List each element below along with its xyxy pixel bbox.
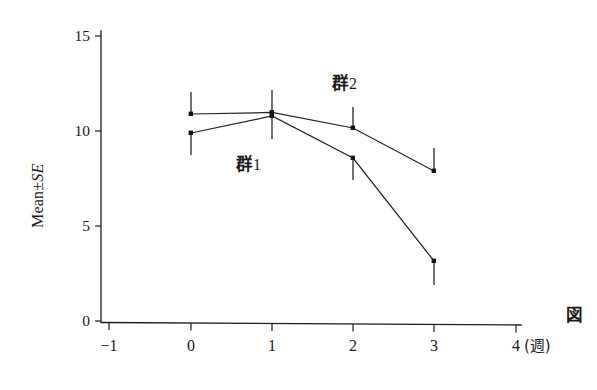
y-axis-title-plusminus: ± (29, 182, 46, 191)
x-tick-label-0: 0 (161, 338, 221, 354)
series-label-group1-kanji: 群 (236, 155, 253, 174)
x-axis-unit-label: (週) (524, 339, 551, 354)
y-axis-ticks (95, 36, 101, 321)
y-axis-title-mean: Mean (29, 191, 46, 228)
errorbars-group2 (191, 90, 434, 171)
y-tick-label-5: 5 (44, 218, 90, 234)
series-label-group2-number: 2 (349, 75, 357, 92)
series-label-group2: 群2 (332, 76, 357, 93)
series-label-group2-kanji: 群 (332, 74, 349, 93)
figure-corner-mark: 図 (566, 308, 583, 325)
x-tick-label-minus1: −1 (79, 338, 139, 354)
figure-chart: 15 10 5 0 Mean±SE −1 0 1 2 3 4 (週) 群1 群2… (0, 0, 597, 390)
x-tick-label-3: 3 (404, 338, 464, 354)
errorbars-group1 (191, 116, 434, 285)
datapoints-group1 (189, 114, 436, 263)
series-label-group1: 群1 (236, 157, 261, 174)
x-tick-label-1: 1 (242, 338, 302, 354)
y-tick-label-15: 15 (44, 28, 90, 44)
datapoints-group2 (189, 110, 436, 173)
series-label-group1-number: 1 (253, 156, 261, 173)
chart-canvas (0, 0, 597, 390)
y-tick-label-0: 0 (44, 313, 90, 329)
y-axis-title: Mean±SE (30, 164, 46, 228)
y-tick-label-10: 10 (44, 123, 90, 139)
y-axis-title-se: SE (29, 164, 46, 182)
x-tick-label-2: 2 (323, 338, 383, 354)
x-axis-line (101, 323, 521, 326)
series-line-group1 (191, 116, 434, 261)
series-line-group2 (191, 113, 434, 172)
